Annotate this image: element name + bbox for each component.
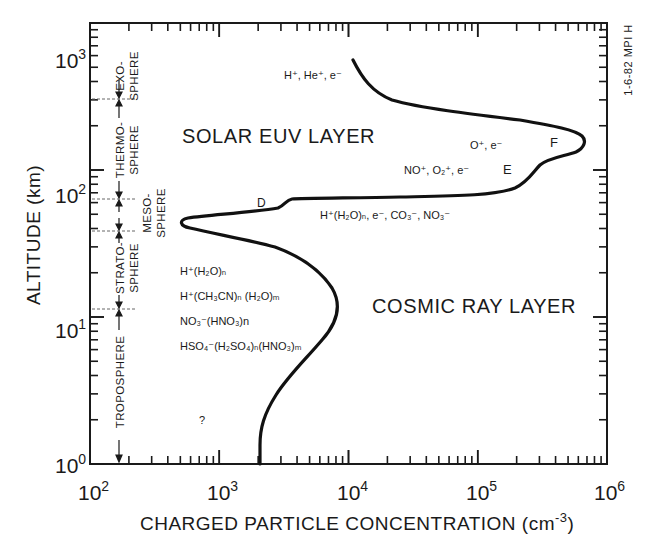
plot-frame <box>90 23 607 464</box>
x-tick-labels: 102 103 104 105 106 <box>78 478 625 504</box>
y-axis-title: ALTITUDE (km) <box>23 165 44 305</box>
ion-label-strat-3: NO₃⁻(HNO₃)n <box>180 315 249 327</box>
y-tick-label: 102 <box>55 181 86 207</box>
cosmic-ray-layer-label: COSMIC RAY LAYER <box>372 295 576 317</box>
x-axis-ticks <box>90 23 607 464</box>
mesosphere-label-2: SPHERE <box>155 188 167 238</box>
exosphere-label-2: SPHERE <box>128 51 140 101</box>
y-tick-label: 101 <box>55 316 86 342</box>
ion-label-e-region: NO⁺, O₂⁺, e⁻ <box>404 164 469 176</box>
x-tick-label: 106 <box>594 478 625 504</box>
x-tick-label: 104 <box>337 478 368 504</box>
region-f-label: F <box>550 135 558 150</box>
y-tick-label: 103 <box>55 46 86 72</box>
region-d-label: D <box>257 196 266 210</box>
stratosphere-label-2: SPHERE <box>128 243 140 293</box>
x-axis-title: CHARGED PARTICLE CONCENTRATION (cm-3) <box>140 510 574 534</box>
ion-label-strat-2: H⁺(CH₃CN)ₙ (H₂O)ₘ <box>180 290 280 302</box>
unknown-ion-label: ? <box>199 414 205 426</box>
ion-label-f-region: O⁺, e⁻ <box>470 139 503 151</box>
ion-labels: H⁺, He⁺, e⁻ O⁺, e⁻ NO⁺, O₂⁺, e⁻ H⁺(H₂O)ₙ… <box>180 69 503 426</box>
ion-label-d-region: H⁺(H₂O)ₙ, e⁻, CO₃⁻, NO₃⁻ <box>320 209 450 221</box>
thermosphere-label-2: SPHERE <box>128 125 140 175</box>
thermosphere-label-1: THERMO- <box>114 122 126 178</box>
ion-label-exosphere: H⁺, He⁺, e⁻ <box>284 69 342 81</box>
x-tick-label: 102 <box>78 478 109 504</box>
concentration-profile-line <box>181 60 584 464</box>
y-tick-labels: 100 101 102 103 <box>55 46 86 477</box>
ion-label-strat-1: H⁺(H₂O)ₙ <box>180 265 226 277</box>
x-tick-label: 105 <box>466 478 497 504</box>
region-e-label: E <box>503 162 512 177</box>
troposphere-label: TROPOSPHERE <box>114 336 126 429</box>
mesosphere-label-1: MESO- <box>141 193 153 233</box>
y-tick-label: 100 <box>55 451 86 477</box>
y-axis-ticks <box>90 23 607 464</box>
stratosphere-label-1: STRATO- <box>114 242 126 294</box>
altitude-concentration-chart: 102 103 104 105 106 100 101 102 103 CHAR… <box>0 0 657 546</box>
figure-stamp: 1-6-82 MPI H <box>622 24 634 95</box>
atmosphere-layer-labels: EXO- SPHERE THERMO- SPHERE MESO- SPHERE … <box>114 51 167 428</box>
exosphere-label-1: EXO- <box>114 61 126 91</box>
x-tick-label: 103 <box>207 478 238 504</box>
ion-label-strat-4: HSO₄⁻(H₂SO₄)ₙ(HNO₃)ₘ <box>180 340 302 352</box>
solar-euv-layer-label: SOLAR EUV LAYER <box>182 125 375 147</box>
